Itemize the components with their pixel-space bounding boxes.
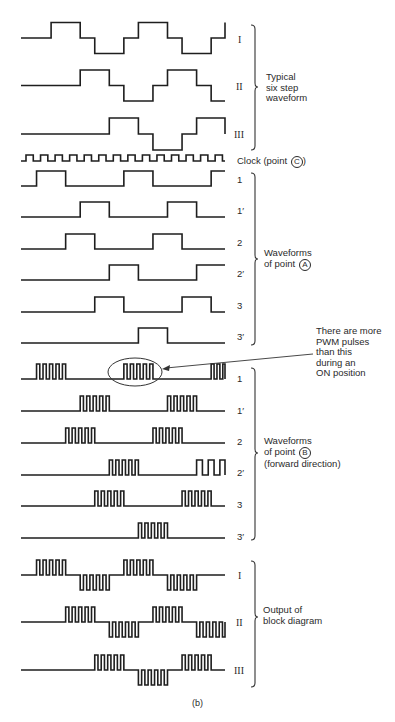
row-label-out-3: III xyxy=(234,665,244,676)
row-label-a-1p: 1′ xyxy=(237,205,244,216)
desc-line: Output of xyxy=(263,604,302,615)
six-step-description: Typical six step waveform xyxy=(266,72,307,104)
desc-line: Waveforms xyxy=(264,247,312,258)
point-b-description: Waveforms of point B (forward direction) xyxy=(264,436,341,469)
brace-point-b xyxy=(251,368,258,540)
waveform-six-step-1 xyxy=(21,23,225,54)
figure-caption: (b) xyxy=(192,698,203,709)
waveform-point-a-1 xyxy=(21,171,225,186)
pwm-highlight-ellipse xyxy=(108,358,162,386)
waveform-point-b-1 xyxy=(21,364,225,379)
waveform-point-a-2 xyxy=(21,234,225,249)
row-label-b-2: 2 xyxy=(237,436,242,447)
clock-label-suffix: ) xyxy=(303,155,306,166)
row-label-b-3: 3 xyxy=(237,499,242,510)
desc-line: Waveforms xyxy=(264,435,312,446)
pwm-annotation: There are more PWM pulses than this duri… xyxy=(316,326,381,379)
row-label-a-3p: 3′ xyxy=(237,331,244,342)
row-label-b-1p: 1′ xyxy=(237,405,244,416)
clock-label: Clock (point C) xyxy=(237,155,306,168)
row-label-a-3: 3 xyxy=(237,300,242,311)
output-description: Output of block diagram xyxy=(263,605,322,626)
arrowhead-icon xyxy=(162,365,170,371)
desc-line: six step xyxy=(266,82,298,93)
row-label-a-2p: 2′ xyxy=(237,268,244,279)
waveform-six-step-2 xyxy=(21,70,225,101)
row-label-b-2p: 2′ xyxy=(237,467,244,478)
waveform-output-1 xyxy=(21,560,225,590)
row-label-out-1: I xyxy=(238,570,241,581)
waveform-point-b-2 xyxy=(21,428,225,443)
waveform-point-a-3 xyxy=(21,297,225,312)
desc-line: Typical xyxy=(266,71,296,82)
row-label-six-step-1: I xyxy=(238,34,241,45)
row-label-out-2: II xyxy=(236,617,243,628)
clock-waveform xyxy=(21,155,225,161)
point-a-description: Waveforms of point A xyxy=(264,248,312,271)
desc-line: of point xyxy=(264,258,298,269)
brace-output xyxy=(251,561,258,687)
circled-letter-c: C xyxy=(291,156,303,168)
row-label-six-step-2: II xyxy=(236,81,243,92)
waveform-point-a-2p xyxy=(21,265,225,280)
desc-line: waveform xyxy=(266,92,307,103)
row-label-a-2: 2 xyxy=(237,237,242,248)
row-label-a-1: 1 xyxy=(237,174,242,185)
waveform-six-step-3 xyxy=(21,118,225,150)
desc-line: block diagram xyxy=(263,615,322,626)
circled-letter-a: A xyxy=(299,259,311,271)
waveform-point-a-1p xyxy=(21,202,225,217)
waveform-point-b-2p xyxy=(21,460,225,475)
waveform-point-a-3p xyxy=(21,328,225,343)
desc-line: (forward direction) xyxy=(264,458,341,469)
clock-label-text: Clock (point xyxy=(237,155,290,166)
brace-point-a xyxy=(251,173,258,345)
waveform-output-2 xyxy=(21,607,225,637)
row-label-b-1: 1 xyxy=(237,373,242,384)
row-label-six-step-3: III xyxy=(234,129,244,140)
waveform-point-b-3p xyxy=(21,523,225,538)
row-label-b-3p: 3′ xyxy=(237,531,244,542)
desc-line: of point xyxy=(264,446,298,457)
annotation-leader-line xyxy=(166,354,313,368)
brace-six-step xyxy=(251,25,258,150)
waveform-output-3 xyxy=(21,655,225,685)
waveform-point-b-3 xyxy=(21,491,225,506)
waveform-point-b-1p xyxy=(21,396,225,411)
